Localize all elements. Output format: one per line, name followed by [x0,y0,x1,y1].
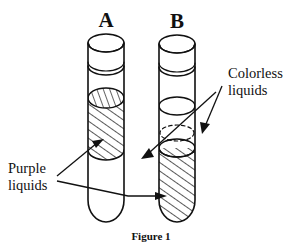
figure-container: A [0,0,302,251]
tube-b-label: B [170,9,184,33]
tube-b-purple-layer [159,139,195,227]
colorless-liquids-line2: liquids [228,82,268,98]
test-tube-b: B [159,9,195,227]
purple-liquids-line1: Purple [8,160,46,176]
figure-caption: Figure 1 [131,230,170,242]
tube-a-purple-layer [88,88,124,160]
tube-a-label: A [98,8,114,32]
purple-liquids-line2: liquids [8,177,48,193]
figure-diagram: A [0,0,302,251]
colorless-leader-to-b [206,86,222,124]
colorless-arrowhead-b [200,122,210,134]
test-tube-a: A [88,8,124,222]
colorless-liquids-line1: Colorless [228,65,283,81]
